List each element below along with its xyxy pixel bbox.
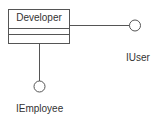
interface-lollipop-iuser-icon[interactable] [130,20,141,31]
interface-label-iuser: IUser [126,53,150,63]
class-name-label: Developer [9,10,69,26]
interface-label-iemployee: IEmployee [16,104,63,114]
interface-lollipop-iemployee-icon[interactable] [34,81,45,92]
